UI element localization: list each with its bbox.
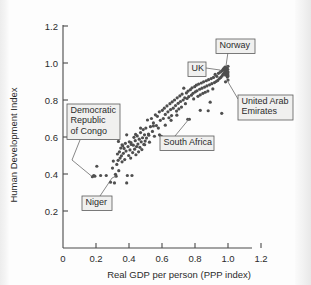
data-point [220, 112, 223, 115]
data-point [120, 154, 123, 157]
data-point [165, 104, 168, 107]
data-point [134, 139, 137, 142]
data-point [118, 150, 121, 153]
data-point [148, 141, 151, 144]
callout-label: of Congo [71, 126, 108, 136]
data-point [111, 166, 114, 169]
data-point [175, 110, 178, 113]
data-point [153, 135, 156, 138]
data-point [130, 174, 133, 177]
data-point [93, 175, 96, 178]
data-point [152, 124, 155, 127]
y-tick-label: 0.6 [45, 132, 58, 143]
data-point [209, 101, 212, 104]
data-point [120, 143, 123, 146]
data-point [207, 109, 210, 112]
data-point [170, 114, 173, 117]
data-point [117, 169, 120, 172]
data-point [212, 76, 215, 79]
data-point [146, 118, 149, 121]
data-point [126, 174, 129, 177]
data-point [138, 138, 141, 141]
data-point [141, 136, 144, 139]
annotation-callouts: DemocraticRepublicof CongoNigerSouth Afr… [67, 39, 293, 211]
data-point [143, 143, 146, 146]
data-point [147, 134, 150, 137]
x-axis-title: Real GDP per person (PPP index) [107, 269, 251, 280]
data-point [140, 148, 143, 151]
callout-leader-line [72, 140, 92, 177]
data-point [172, 107, 175, 110]
data-point [180, 105, 183, 108]
data-point [144, 139, 147, 142]
y-tick-label: 0.2 [45, 206, 58, 217]
data-point [140, 140, 143, 143]
data-point [139, 131, 142, 134]
data-point [226, 70, 229, 73]
callout-label: Emirates [242, 106, 278, 116]
data-point [167, 116, 170, 119]
data-point [134, 133, 137, 136]
callout-label: Norway [220, 40, 251, 50]
data-point [124, 149, 127, 152]
data-point [192, 97, 195, 100]
callout-label: Republic [71, 115, 107, 125]
data-point [133, 148, 136, 151]
data-point [163, 107, 166, 110]
data-point [206, 90, 209, 93]
x-tick-label: 0.6 [155, 253, 168, 264]
data-point [123, 158, 126, 161]
data-point [127, 154, 130, 157]
scatter-plot: 0.20.40.60.81.01.2 00.20.40.60.81.01.2 H… [0, 0, 311, 285]
data-point [125, 181, 128, 184]
data-point [124, 142, 127, 145]
figure-container: 0.20.40.60.81.01.2 00.20.40.60.81.01.2 H… [0, 0, 311, 285]
data-point [139, 127, 142, 130]
data-point [157, 127, 160, 130]
data-point [176, 96, 179, 99]
data-point [159, 119, 162, 122]
data-point [169, 119, 172, 122]
data-point [122, 152, 125, 155]
data-point [164, 124, 167, 127]
data-point [182, 87, 185, 90]
y-axis-ticks: 0.20.40.60.81.01.2 [45, 21, 68, 217]
y-axis-title: Human Development Index [8, 87, 19, 202]
data-point [224, 80, 227, 83]
data-point [129, 156, 132, 159]
callout-leader-line [226, 52, 228, 66]
x-tick-label: 0.4 [122, 253, 135, 264]
data-point [115, 175, 118, 178]
data-point [149, 125, 152, 128]
data-point [95, 165, 98, 168]
callout-label: UK [192, 63, 205, 73]
x-tick-label: 1.2 [254, 253, 267, 264]
data-point [152, 121, 155, 124]
data-point [177, 107, 180, 110]
data-point [113, 181, 116, 184]
y-tick-label: 0.8 [45, 95, 58, 106]
data-point [136, 142, 139, 145]
y-tick-label: 0.4 [45, 169, 58, 180]
data-point [129, 141, 132, 144]
data-point [126, 145, 129, 148]
data-point [226, 74, 229, 77]
data-point [150, 117, 153, 120]
data-point [158, 110, 161, 113]
callout-label: South Africa [164, 137, 213, 147]
data-point [173, 98, 176, 101]
data-point [137, 150, 140, 153]
x-tick-label: 0 [60, 253, 65, 264]
data-point [184, 102, 187, 105]
callout-label: United Arab [242, 96, 289, 106]
data-point [128, 148, 131, 151]
data-point [122, 147, 125, 150]
data-point [120, 160, 123, 163]
data-point [115, 163, 118, 166]
data-point [112, 159, 115, 162]
data-point [162, 117, 165, 120]
x-tick-label: 0.8 [188, 253, 201, 264]
data-point [131, 151, 134, 154]
data-point [143, 133, 146, 136]
data-point [145, 137, 148, 140]
